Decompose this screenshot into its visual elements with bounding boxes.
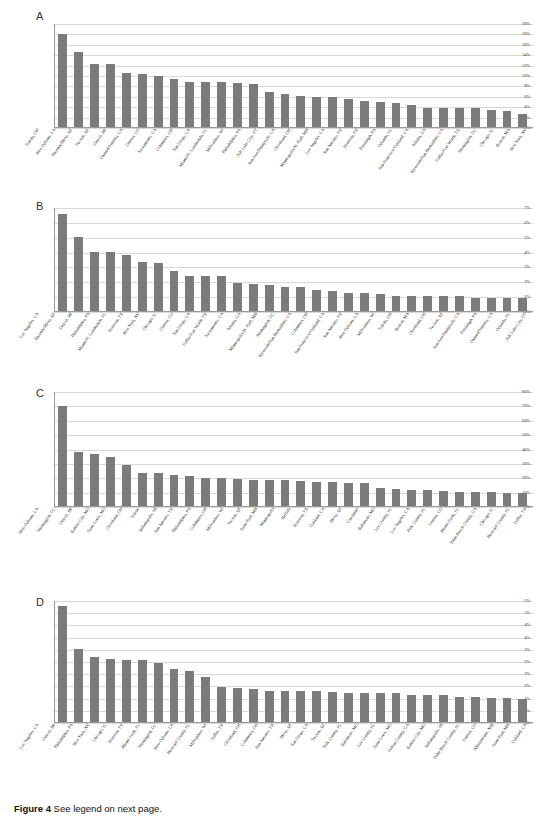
bar[interactable]: [471, 492, 480, 506]
bar[interactable]: [407, 490, 416, 506]
bar[interactable]: [201, 677, 210, 722]
bar[interactable]: [487, 492, 496, 506]
bar[interactable]: [249, 84, 258, 127]
bar[interactable]: [487, 298, 496, 311]
bar[interactable]: [90, 454, 99, 506]
bar[interactable]: [407, 296, 416, 311]
bar[interactable]: [122, 465, 131, 506]
bar[interactable]: [407, 105, 416, 127]
bar[interactable]: [312, 691, 321, 722]
bar[interactable]: [217, 82, 226, 127]
bar[interactable]: [376, 488, 385, 506]
bar[interactable]: [503, 698, 512, 722]
bar[interactable]: [281, 691, 290, 722]
bar[interactable]: [360, 293, 369, 311]
bar[interactable]: [392, 489, 401, 506]
bar[interactable]: [122, 73, 131, 127]
bar[interactable]: [249, 480, 258, 506]
bar[interactable]: [423, 296, 432, 311]
bar[interactable]: [360, 101, 369, 127]
bar[interactable]: [360, 693, 369, 722]
bar[interactable]: [439, 695, 448, 722]
bar[interactable]: [138, 262, 147, 311]
bar[interactable]: [106, 457, 115, 506]
bar[interactable]: [185, 276, 194, 311]
bar[interactable]: [518, 699, 527, 722]
bar[interactable]: [518, 298, 527, 311]
bar[interactable]: [471, 298, 480, 311]
bar[interactable]: [392, 693, 401, 722]
bar[interactable]: [233, 83, 242, 127]
bar[interactable]: [217, 276, 226, 311]
bar[interactable]: [138, 74, 147, 127]
bar[interactable]: [58, 406, 67, 506]
bar[interactable]: [217, 478, 226, 507]
bar[interactable]: [455, 108, 464, 127]
bar[interactable]: [90, 64, 99, 127]
bar[interactable]: [138, 660, 147, 722]
bar[interactable]: [344, 483, 353, 506]
bar[interactable]: [312, 482, 321, 506]
bar[interactable]: [154, 76, 163, 128]
bar[interactable]: [487, 110, 496, 127]
bar[interactable]: [328, 692, 337, 722]
bar[interactable]: [58, 214, 67, 311]
bar[interactable]: [281, 287, 290, 311]
bar[interactable]: [503, 111, 512, 127]
bar[interactable]: [455, 296, 464, 311]
bar[interactable]: [487, 698, 496, 722]
bar[interactable]: [392, 103, 401, 127]
bar[interactable]: [74, 649, 83, 722]
bar[interactable]: [360, 483, 369, 506]
bar[interactable]: [74, 452, 83, 506]
bar[interactable]: [328, 291, 337, 311]
bar[interactable]: [344, 693, 353, 722]
bar[interactable]: [312, 97, 321, 127]
bar[interactable]: [170, 271, 179, 311]
bar[interactable]: [138, 473, 147, 506]
bar[interactable]: [439, 296, 448, 311]
bar[interactable]: [233, 688, 242, 722]
bar[interactable]: [423, 695, 432, 722]
bar[interactable]: [344, 99, 353, 127]
bar[interactable]: [328, 482, 337, 506]
bar[interactable]: [74, 237, 83, 311]
bar[interactable]: [265, 480, 274, 506]
bar[interactable]: [281, 480, 290, 506]
bar[interactable]: [217, 687, 226, 722]
bar[interactable]: [233, 479, 242, 506]
bar[interactable]: [471, 108, 480, 127]
bar[interactable]: [185, 671, 194, 722]
bar[interactable]: [185, 82, 194, 127]
bar[interactable]: [376, 294, 385, 311]
bar[interactable]: [170, 475, 179, 506]
bar[interactable]: [439, 491, 448, 506]
bar[interactable]: [296, 691, 305, 722]
bar[interactable]: [296, 287, 305, 311]
bar[interactable]: [154, 663, 163, 722]
bar[interactable]: [518, 493, 527, 506]
bar[interactable]: [106, 659, 115, 722]
bar[interactable]: [503, 493, 512, 506]
bar[interactable]: [90, 657, 99, 722]
bar[interactable]: [154, 263, 163, 311]
bar[interactable]: [423, 490, 432, 506]
bar[interactable]: [455, 697, 464, 722]
bar[interactable]: [249, 284, 258, 311]
bar[interactable]: [312, 290, 321, 311]
bar[interactable]: [201, 478, 210, 507]
bar[interactable]: [185, 476, 194, 506]
bar[interactable]: [455, 492, 464, 506]
bar[interactable]: [58, 606, 67, 722]
bar[interactable]: [407, 695, 416, 722]
bar[interactable]: [58, 34, 67, 127]
bar[interactable]: [281, 94, 290, 127]
bar[interactable]: [170, 669, 179, 722]
bar[interactable]: [265, 691, 274, 722]
bar[interactable]: [170, 79, 179, 127]
bar[interactable]: [518, 114, 527, 127]
bar[interactable]: [201, 82, 210, 127]
bar[interactable]: [201, 276, 210, 311]
bar[interactable]: [265, 92, 274, 127]
bar[interactable]: [503, 298, 512, 311]
